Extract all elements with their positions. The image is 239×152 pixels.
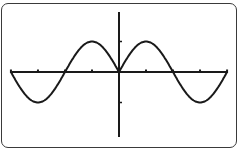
graph-plot [0,0,239,152]
axes [12,12,228,137]
